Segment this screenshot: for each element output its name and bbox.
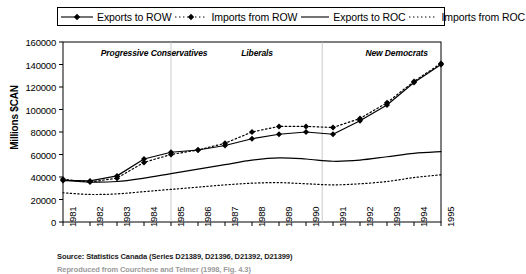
x-axis-tick-label: 1995 bbox=[445, 207, 456, 227]
x-axis-tick-label: 1992 bbox=[364, 207, 375, 227]
series-line bbox=[63, 63, 441, 182]
x-axis-tick-label: 1990 bbox=[310, 207, 321, 227]
legend-item-label: Imports from ROC bbox=[440, 11, 526, 23]
series-line bbox=[63, 65, 441, 181]
series-data-point bbox=[330, 131, 336, 137]
series-imports-from-roc bbox=[63, 175, 441, 195]
source-line-1: Source: Statistics Canada (Series D21389… bbox=[57, 252, 292, 261]
annotation-liberals: Liberals bbox=[241, 48, 273, 58]
x-axis-tick-label: 1981 bbox=[67, 207, 78, 227]
series-data-point bbox=[249, 136, 255, 142]
annotation-progressive-conservatives: Progressive Conservatives bbox=[101, 48, 208, 58]
x-axis-tick-label: 1982 bbox=[94, 207, 105, 227]
series-data-point bbox=[249, 129, 255, 135]
series-data-point bbox=[276, 123, 282, 129]
x-axis-tick-label: 1988 bbox=[256, 207, 267, 227]
x-axis-tick-label: 1989 bbox=[283, 207, 294, 227]
series-imports-from-row bbox=[60, 60, 444, 185]
series-data-point bbox=[330, 125, 336, 131]
x-axis-tick-label: 1983 bbox=[121, 207, 132, 227]
series-data-point bbox=[303, 129, 309, 135]
annotation-new-democrats: New Democrats bbox=[365, 48, 427, 58]
x-axis-tick-label: 1991 bbox=[337, 207, 348, 227]
series-line bbox=[63, 152, 441, 182]
series-exports-to-roc bbox=[63, 152, 441, 182]
x-axis-tick-label: 1984 bbox=[148, 207, 159, 227]
x-axis-tick-label: 1987 bbox=[229, 207, 240, 227]
series-data-point bbox=[276, 131, 282, 137]
source-line-2: Reproduced from Courchene and Telmer (19… bbox=[57, 265, 251, 274]
series-exports-to-row bbox=[60, 62, 444, 184]
series-data-point bbox=[303, 123, 309, 129]
series-line bbox=[63, 175, 441, 195]
series-data-point bbox=[195, 147, 201, 153]
x-axis-tick-label: 1993 bbox=[391, 207, 402, 227]
x-axis-tick-label: 1985 bbox=[175, 207, 186, 227]
x-axis-tick-label: 1994 bbox=[418, 207, 429, 227]
x-axis-tick-label: 1986 bbox=[202, 207, 213, 227]
